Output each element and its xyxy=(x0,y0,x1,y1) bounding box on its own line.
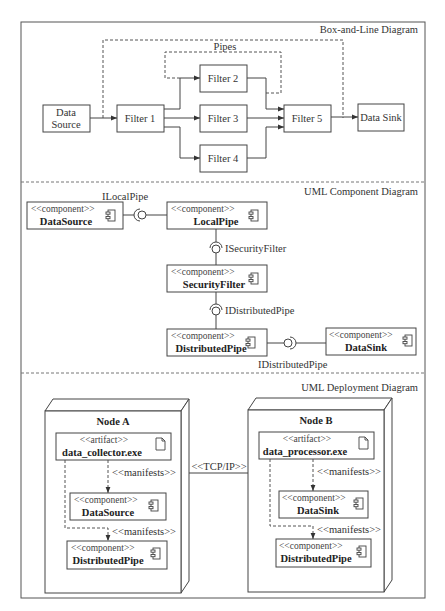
svg-text:<<component>>: <<component>> xyxy=(74,495,138,505)
pipe-arrow xyxy=(164,127,200,158)
pipes-label: Pipes xyxy=(214,41,237,52)
interface-label-ilocalpipe: ILocalPipe xyxy=(102,191,148,202)
svg-text:<<artifact>>: <<artifact>> xyxy=(80,435,128,445)
svg-text:DataSink: DataSink xyxy=(345,342,387,353)
manifests-label: <<manifests>> xyxy=(317,524,381,535)
svg-text:Source: Source xyxy=(51,119,80,130)
uml-deployment-diagram: UML Deployment Diagram Node A <<artifact… xyxy=(45,382,418,593)
artifact-data-processor: <<artifact>> data_processor.exe xyxy=(259,432,374,459)
svg-text:DataSource: DataSource xyxy=(82,507,135,518)
node-a: Node A <<artifact>> data_collector.exe <… xyxy=(45,399,189,593)
pipe-arrow xyxy=(247,127,284,158)
svg-text:LocalPipe: LocalPipe xyxy=(194,216,239,227)
component-distributedpipe-deployed: <<component>> DistributedPipe xyxy=(67,541,167,569)
svg-text:SecurityFilter: SecurityFilter xyxy=(183,279,246,290)
filter-1-box: Filter 1 xyxy=(117,105,164,132)
manifests-label: <<manifests>> xyxy=(112,467,176,478)
interface-label-isecurityfilter: ISecurityFilter xyxy=(225,243,287,254)
svg-text:DataSource: DataSource xyxy=(40,216,93,227)
interface-label-idistributedpipe: IDistributedPipe xyxy=(225,305,295,316)
uml-component-diagram: UML Component Diagram <<component>> Data… xyxy=(27,186,418,370)
svg-text:Filter 1: Filter 1 xyxy=(125,113,156,124)
data-sink-box: Data Sink xyxy=(358,104,404,131)
svg-text:Filter 5: Filter 5 xyxy=(292,113,323,124)
svg-text:Filter 2: Filter 2 xyxy=(208,73,239,84)
svg-text:Data: Data xyxy=(56,107,76,118)
provided-interface-ball xyxy=(284,339,292,347)
svg-text:<<component>>: <<component>> xyxy=(329,330,393,340)
svg-text:<<component>>: <<component>> xyxy=(71,543,135,553)
svg-text:data_processor.exe: data_processor.exe xyxy=(263,446,348,457)
svg-text:<<component>>: <<component>> xyxy=(171,331,235,341)
filter-4-box: Filter 4 xyxy=(200,145,247,172)
manifests-label: <<manifests>> xyxy=(317,466,381,477)
interface-label-idistributedpipe: IDistributedPipe xyxy=(258,359,328,370)
section-title-deployment: UML Deployment Diagram xyxy=(301,382,418,393)
svg-text:<<component>>: <<component>> xyxy=(171,267,235,277)
svg-text:DistributedPipe: DistributedPipe xyxy=(175,343,247,354)
component-securityfilter: <<component>> SecurityFilter xyxy=(167,265,267,292)
svg-text:<<component>>: <<component>> xyxy=(31,204,95,214)
tcp-ip-label: <<TCP/IP>> xyxy=(191,461,246,472)
data-source-box: Data Source xyxy=(43,105,90,132)
filter-2-box: Filter 2 xyxy=(200,65,247,92)
svg-text:<<artifact>>: <<artifact>> xyxy=(283,434,331,444)
section-title-box-and-line: Box-and-Line Diagram xyxy=(320,24,418,35)
component-distributedpipe: <<component>> DistributedPipe xyxy=(167,329,267,356)
node-a-name: Node A xyxy=(97,416,130,427)
provided-interface-ball xyxy=(212,245,220,253)
component-datasink-deployed: <<component>> DataSink xyxy=(279,491,368,518)
node-b-name: Node B xyxy=(300,415,333,426)
provided-interface-ball xyxy=(138,211,146,219)
svg-text:Data Sink: Data Sink xyxy=(360,112,402,123)
document-icon xyxy=(156,438,165,450)
document-icon xyxy=(359,437,368,449)
svg-text:Filter 3: Filter 3 xyxy=(208,113,239,124)
component-localpipe: <<component>> LocalPipe xyxy=(167,202,267,229)
node-b: Node B <<artifact>> data_processor.exe <… xyxy=(248,398,392,592)
svg-text:Filter 4: Filter 4 xyxy=(208,153,239,164)
svg-text:<<component>>: <<component>> xyxy=(282,493,346,503)
architecture-diagram: Box-and-Line Diagram Pipes Data Source F… xyxy=(0,0,445,611)
filter-3-box: Filter 3 xyxy=(200,105,247,132)
required-interface-socket xyxy=(290,337,296,349)
component-distributedpipe-deployed-b: <<component>> DistributedPipe xyxy=(276,539,371,567)
manifests-label: <<manifests>> xyxy=(112,526,176,537)
section-title-component: UML Component Diagram xyxy=(304,186,418,197)
svg-text:DistributedPipe: DistributedPipe xyxy=(72,555,144,566)
provided-interface-ball xyxy=(212,307,220,315)
svg-text:DataSink: DataSink xyxy=(297,505,339,516)
component-datasink: <<component>> DataSink xyxy=(326,328,416,355)
svg-text:<<component>>: <<component>> xyxy=(279,541,343,551)
svg-text:data_collector.exe: data_collector.exe xyxy=(62,447,142,458)
component-datasource: <<component>> DataSource xyxy=(27,202,123,229)
artifact-data-collector: <<artifact>> data_collector.exe xyxy=(56,433,171,460)
svg-text:DistributedPipe: DistributedPipe xyxy=(280,553,352,564)
pipe-arrow xyxy=(164,78,200,109)
box-and-line-diagram: Box-and-Line Diagram Pipes Data Source F… xyxy=(43,24,418,172)
filter-5-box: Filter 5 xyxy=(284,105,331,132)
required-interface-socket xyxy=(134,209,140,221)
svg-text:<<component>>: <<component>> xyxy=(171,204,235,214)
component-datasource-deployed: <<component>> DataSource xyxy=(70,493,166,520)
